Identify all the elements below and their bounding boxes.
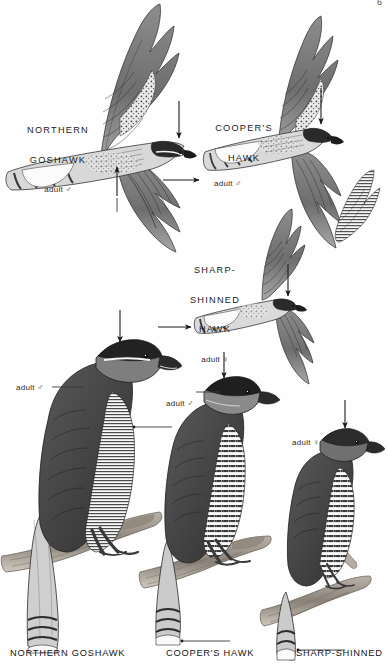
page-number: 6 [377,0,382,7]
figure-sharp-shinned-hawk-perched [260,429,385,660]
figure-wingtip-detail [335,170,380,242]
leader-line-dots [133,391,300,652]
field-guide-plate: 6 [0,0,388,666]
age-sex-label: adult ♂ [10,185,106,194]
caption-sharp-shinned: SHARP-SHINNED [296,648,383,658]
species-name-line1: COOPER'S [198,123,290,134]
species-name-line1: NORTHERN [10,125,106,136]
label-northern-goshawk-flight: NORTHERN GOSHAWK adult ♂ [10,106,106,214]
age-sex-label-coopers-perched: adult ♂ [166,399,194,408]
figure-coopers-hawk-perched [139,377,280,645]
species-name-line2: GOSHAWK [10,155,106,166]
caption-northern-goshawk: NORTHERN GOSHAWK [10,648,125,658]
age-sex-label: adult ♀ [172,355,258,364]
age-sex-label-coopers-flight: adult ♂ [214,179,242,188]
age-sex-label-sharp-shinned-perched: adult ♀ [292,438,320,447]
species-name-line2: HAWK [198,153,290,164]
species-name-line3: HAWK [172,324,258,335]
species-name-line1: SHARP- [172,265,258,276]
age-sex-label-goshawk-perched: adult ♂ [16,383,44,392]
species-name-line2: SHINNED [172,295,258,306]
label-coopers-hawk-flight: COOPER'S HAWK [198,104,290,182]
caption-coopers-hawk: COOPER'S HAWK [166,648,254,658]
label-sharp-shinned-hawk-flight: SHARP- SHINNED HAWK adult ♀ [172,246,258,383]
